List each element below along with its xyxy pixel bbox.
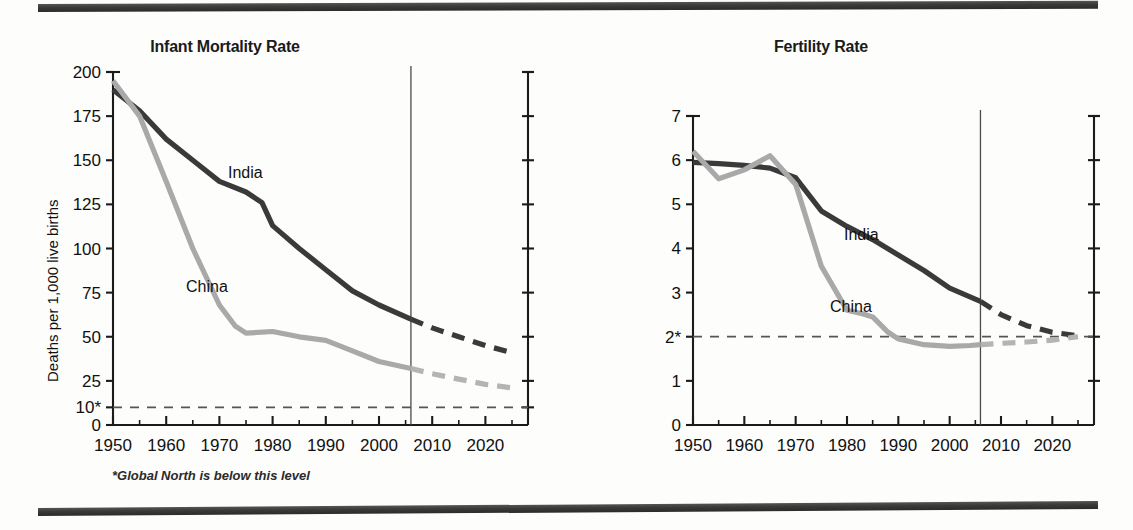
- y-tick-label: 4: [672, 239, 681, 258]
- x-tick-label: 1950: [674, 436, 712, 455]
- x-tick-label: 1970: [777, 436, 815, 455]
- y-tick-label: 100: [73, 240, 101, 259]
- y-tick-label: 50: [82, 328, 101, 347]
- y-tick-label: 1: [672, 372, 681, 391]
- chart-panel-fertility: Fertility Rate Children per woman *Repla…: [566, 0, 1132, 530]
- x-tick-label: 2020: [1033, 436, 1071, 455]
- series-annotation-china: China: [186, 278, 228, 295]
- series-line-india: [113, 90, 411, 319]
- x-tick-label: 1980: [828, 436, 866, 455]
- y-tick-label: 3: [672, 284, 681, 303]
- figure-canvas: Infant Mortality Rate Deaths per 1,000 l…: [0, 0, 1133, 530]
- x-tick-label: 1990: [307, 436, 345, 455]
- x-tick-label: 1970: [200, 436, 238, 455]
- series-line-india: [693, 162, 981, 301]
- y-tick-label: 10*: [75, 398, 101, 417]
- x-tick-label: 2000: [931, 436, 969, 455]
- y-tick-label: 75: [82, 284, 101, 303]
- series-projection-china: [411, 369, 512, 388]
- x-tick-label: 2010: [413, 436, 451, 455]
- y-tick-label: 5: [672, 195, 681, 214]
- x-tick-label: 2000: [360, 436, 398, 455]
- x-tick-label: 1950: [94, 436, 132, 455]
- y-tick-label: 2*: [665, 328, 681, 347]
- x-tick-label: 1990: [879, 436, 917, 455]
- x-tick-label: 2020: [466, 436, 504, 455]
- x-tick-label: 1960: [725, 436, 763, 455]
- y-tick-label: 125: [73, 195, 101, 214]
- y-tick-label: 175: [73, 107, 101, 126]
- chart-svg-infant-mortality: 010*255075100125150175200195019601970198…: [0, 0, 566, 530]
- x-tick-label: 1960: [147, 436, 185, 455]
- y-tick-label: 25: [82, 372, 101, 391]
- y-tick-label: 0: [92, 416, 101, 435]
- chart-panel-infant-mortality: Infant Mortality Rate Deaths per 1,000 l…: [0, 0, 566, 530]
- y-tick-label: 200: [73, 63, 101, 82]
- series-line-china: [113, 81, 411, 369]
- y-tick-label: 6: [672, 151, 681, 170]
- x-tick-label: 2010: [982, 436, 1020, 455]
- x-tick-label: 1980: [254, 436, 292, 455]
- series-projection-india: [411, 319, 512, 353]
- y-tick-label: 7: [672, 107, 681, 126]
- series-projection-china: [981, 337, 1079, 345]
- y-tick-label: 0: [672, 416, 681, 435]
- series-projection-india: [981, 301, 1079, 335]
- series-annotation-india: India: [228, 164, 263, 181]
- series-line-china: [693, 151, 981, 346]
- series-annotation-china: China: [830, 298, 872, 315]
- chart-svg-fertility: 012*345671950196019701980199020002010202…: [566, 0, 1132, 530]
- series-annotation-india: India: [844, 226, 879, 243]
- y-tick-label: 150: [73, 151, 101, 170]
